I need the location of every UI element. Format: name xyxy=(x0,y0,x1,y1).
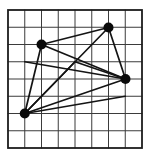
diagram-canvas xyxy=(0,0,150,156)
grid-graph-diagram xyxy=(0,0,150,156)
graph-edge-p-c xyxy=(75,62,126,79)
vertex-dot-c xyxy=(121,74,131,84)
graph-edge-b-c xyxy=(109,28,126,80)
vertex-dot-b xyxy=(104,23,114,33)
vertex-dot-d xyxy=(20,109,30,119)
vertex-dot-a xyxy=(37,40,47,50)
